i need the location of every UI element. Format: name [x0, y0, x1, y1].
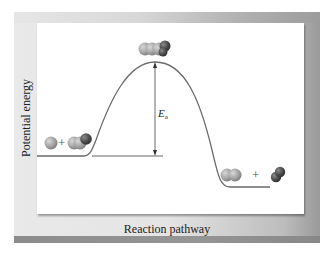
light-atom-icon	[45, 137, 58, 150]
arrow-head-top-icon	[153, 62, 157, 68]
light-atom-icon	[229, 169, 242, 182]
products-molecules: +	[221, 167, 286, 182]
x-axis-label: Reaction pathway	[124, 222, 210, 237]
activation-energy-label: Ea	[157, 107, 169, 121]
dark-atom-icon	[80, 133, 92, 145]
reactants-molecules: +	[45, 133, 92, 150]
arrow-head-bottom-icon	[153, 150, 157, 156]
dark-atom-icon	[159, 48, 168, 57]
plus-sign: +	[252, 167, 259, 182]
transition-state-molecule	[139, 41, 171, 57]
energy-curve	[37, 62, 270, 187]
y-axis-label: Potential energy	[19, 79, 34, 157]
plus-sign: +	[58, 135, 65, 150]
dark-atom-icon	[275, 167, 285, 177]
